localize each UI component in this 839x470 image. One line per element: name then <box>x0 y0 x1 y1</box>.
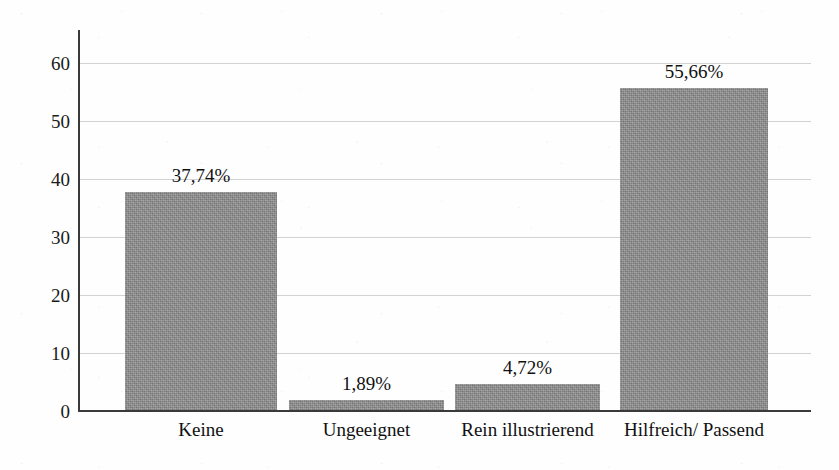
y-axis-tick-label: 0 <box>30 402 70 421</box>
y-axis-tick-label: 20 <box>30 286 70 305</box>
y-axis-tick-label: 40 <box>30 170 70 189</box>
x-axis-category-label: Ungeeignet <box>271 420 462 439</box>
bar-chart: Anteil in Prozent 0102030405060 37,74%Ke… <box>0 0 839 470</box>
bar <box>455 384 600 411</box>
y-axis-tick-labels: 0102030405060 <box>22 0 70 470</box>
bar-value-label: 55,66% <box>620 62 768 81</box>
y-axis-tick-label: 10 <box>30 344 70 363</box>
x-axis-category-label: Rein illustrierend <box>437 420 618 439</box>
bar-value-label: 37,74% <box>125 166 277 185</box>
y-axis-line <box>78 30 80 412</box>
bar-value-label: 1,89% <box>289 374 444 393</box>
y-axis-tick-label: 50 <box>30 112 70 131</box>
x-axis-line <box>78 410 811 412</box>
bar <box>620 88 768 411</box>
x-axis-category-label: Keine <box>107 420 295 439</box>
y-axis-tick-label: 60 <box>30 54 70 73</box>
y-axis-tick-label: 30 <box>30 228 70 247</box>
bar <box>125 192 277 411</box>
plot-area <box>78 30 811 411</box>
bar-value-label: 4,72% <box>455 358 600 377</box>
x-axis-category-label: Hilfreich/ Passend <box>602 420 786 439</box>
